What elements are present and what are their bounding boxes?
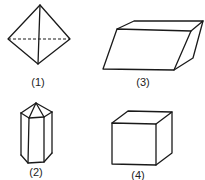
cube-side-face xyxy=(156,112,172,165)
prism-vertical-edge-2 xyxy=(28,118,29,163)
prism-bottom-outline xyxy=(21,153,52,163)
label-figure-4: (4) xyxy=(131,169,144,180)
label-figure-3: (3) xyxy=(136,76,149,88)
figure-parallelepiped: (3) xyxy=(103,21,203,88)
octahedron-vertical-edge xyxy=(38,5,40,64)
parallelepiped-side-face xyxy=(174,21,203,70)
label-figure-2: (2) xyxy=(29,166,42,178)
crystal-shapes-diagram: (1) (3) (2) (4) xyxy=(0,0,205,180)
cube-front-face xyxy=(112,123,156,165)
parallelepiped-front-face xyxy=(103,29,191,70)
figure-cube: (4) xyxy=(112,111,172,180)
figure-octahedron: (1) xyxy=(8,5,70,88)
cube-top-face xyxy=(112,111,172,124)
label-figure-1: (1) xyxy=(31,76,44,88)
figure-hexagonal-prism: (2) xyxy=(21,103,52,178)
prism-top-hexagon-front xyxy=(21,112,52,118)
